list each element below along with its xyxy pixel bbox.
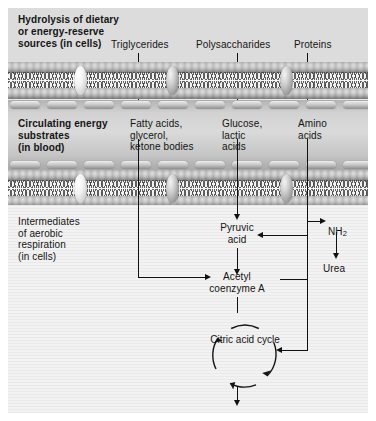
membrane-protein-icon [166, 66, 179, 95]
blood-substrate-amino-acids: Amino acids [298, 118, 348, 141]
node-pyruvic-acid: Pyruvic acid [211, 222, 263, 245]
endothelium-row-upper [8, 100, 368, 110]
membrane-protein-icon [166, 174, 179, 203]
node-ammonia: NH2 [328, 214, 347, 239]
node-products: CO2 + H2O + ATP [170, 410, 310, 413]
connector-pyruvic-to-acetyl [237, 248, 238, 270]
connector-ammonia-arrowhead [320, 218, 326, 224]
connector-products-arrowhead [234, 400, 240, 406]
node-acetyl-coenzyme-a: Acetyl coenzyme A [198, 271, 276, 294]
connector-aminoacids-cycle-stem [307, 279, 308, 350]
connector-urea-arrowhead [333, 253, 339, 259]
cycle-label: Citric acid cycle [206, 334, 284, 346]
connector-aminoacids-to-cycle [280, 279, 308, 280]
membrane-protein-icon [280, 66, 293, 95]
blood-heading: Circulating energy substrates (in blood) [18, 118, 138, 154]
node-urea: Urea [323, 263, 345, 275]
endothelium-row-lower [8, 160, 368, 170]
cycle-ring-icon [206, 319, 284, 393]
connector-fattyacids-stem [138, 139, 139, 277]
substrate-label-polysaccharides: Polysaccharides [196, 39, 284, 51]
plasma-membrane-upper [8, 62, 368, 99]
membrane-protein-icon [280, 174, 293, 203]
diagram-canvas: Hydrolysis of dietary or energy-reserve … [8, 8, 368, 413]
membrane-protein-icon [74, 66, 87, 95]
connector-glucose-stem [237, 139, 238, 215]
citric-acid-cycle-node: Citric acid cycle [206, 319, 284, 393]
membrane-protein-icon [74, 174, 87, 203]
substrate-label-proteins: Proteins [294, 39, 348, 51]
plasma-membrane-lower [8, 170, 368, 207]
cell-heading: Intermediates of aerobic respiration (in… [18, 216, 114, 262]
substrate-label-triglycerides: Triglycerides [111, 39, 183, 51]
connector-fattyacids-elbow [138, 277, 206, 278]
connector-aminoacids-stem [307, 139, 308, 279]
figure-root: Hydrolysis of dietary or energy-reserve … [0, 0, 376, 421]
connector-ammonia-branch [307, 221, 321, 222]
lipid-tail-row-upper [8, 180, 368, 188]
ammonia-subscript: 2 [343, 229, 347, 238]
blood-substrate-fatty-acids: Fatty acids, glycerol, ketone bodies [130, 118, 218, 153]
connector-acetyl-to-cycle [237, 297, 238, 313]
connector-ammonia-to-urea [336, 232, 337, 254]
connector-aminoacids-to-pyruvic [260, 235, 308, 236]
connector-cycle-to-products [237, 387, 238, 401]
lipid-tail-row-upper [8, 72, 368, 80]
blood-substrate-glucose: Glucose, lactic acids [222, 118, 284, 153]
phospholipid-head-row-lower [8, 88, 368, 99]
connector-glucose-arrowhead [234, 214, 240, 220]
